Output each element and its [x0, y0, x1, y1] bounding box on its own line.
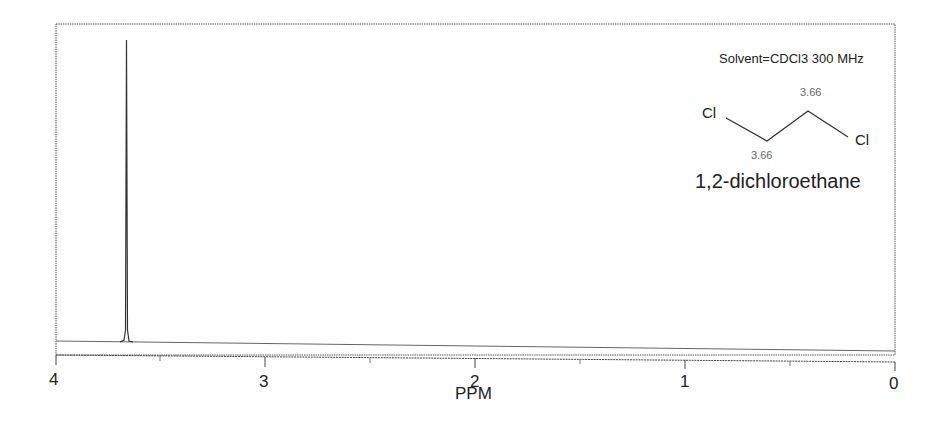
x-tick-label-3: 3	[259, 372, 268, 392]
shift-label-bottom: 3.66	[751, 149, 772, 161]
shift-label-top: 3.66	[800, 86, 821, 98]
chlorine-left-label: Cl	[702, 104, 716, 121]
x-tick-label-4: 4	[49, 370, 58, 390]
compound-name: 1,2-dichloroethane	[695, 170, 861, 193]
chlorine-right-label: Cl	[855, 131, 869, 148]
solvent-label: Solvent=CDCl3 300 MHz	[719, 51, 864, 66]
x-tick-label-1: 1	[680, 372, 689, 392]
x-tick-label-0: 0	[889, 374, 898, 394]
molecule-structure	[726, 111, 848, 141]
x-axis-title: PPM	[455, 384, 492, 404]
peak-3-66	[120, 40, 133, 342]
spectrum-baseline	[56, 341, 895, 351]
